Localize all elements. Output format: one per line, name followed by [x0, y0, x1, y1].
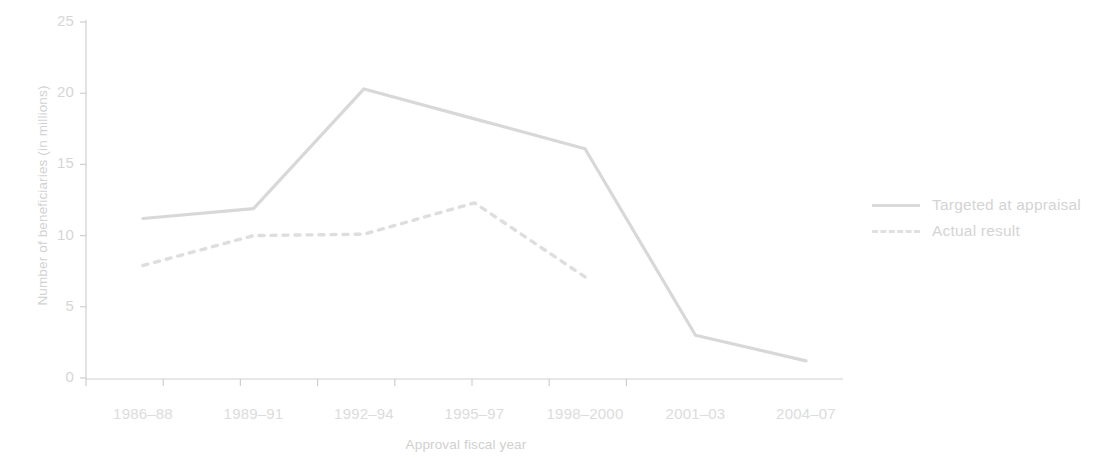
- line-chart: Number of beneficiaries (in millions) Ap…: [0, 0, 1106, 464]
- dashed-line-icon: [872, 230, 920, 233]
- x-axis-ticks: [86, 379, 626, 386]
- axis-lines: [86, 20, 843, 379]
- legend-item-label: Actual result: [932, 222, 1020, 240]
- y-axis-ticks: [80, 22, 86, 378]
- legend-item-label: Targeted at appraisal: [932, 196, 1081, 214]
- data-series-layer: [143, 89, 806, 361]
- chart-legend: Targeted at appraisalActual result: [872, 192, 1102, 244]
- legend-item[interactable]: Targeted at appraisal: [872, 192, 1102, 218]
- solid-line-icon: [872, 204, 920, 207]
- legend-item[interactable]: Actual result: [872, 218, 1102, 244]
- series-line-1: [143, 89, 806, 361]
